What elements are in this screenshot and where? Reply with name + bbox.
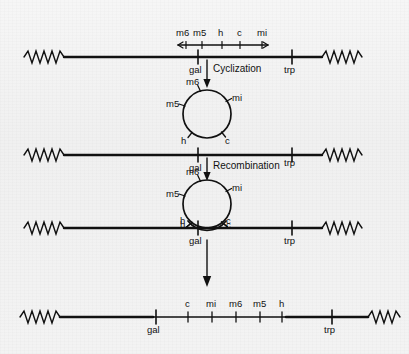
row4-left-zigzag — [20, 311, 60, 323]
row1-right-zigzag — [322, 51, 362, 63]
circle1-label-m5: m5 — [166, 99, 179, 109]
cyclization-arrow-head — [203, 79, 210, 88]
circle2-label-m5: m5 — [166, 189, 179, 199]
circle2-label-m6: m6 — [186, 167, 199, 177]
circle1-tick-h — [188, 133, 192, 138]
row4-right-zigzag — [368, 311, 400, 323]
row4-label-mi: mi — [206, 299, 216, 309]
scale-label-mi: mi — [257, 28, 267, 38]
process-label-cyclization: Cyclization — [213, 64, 261, 74]
circle1-label-mi: mi — [232, 93, 242, 103]
circle1-label-m6: m6 — [186, 77, 199, 87]
circle1-label-h: h — [181, 136, 186, 146]
diagram-canvas: m6 m5 h c mi gal trp Cyclization m6 m5 m… — [0, 0, 409, 354]
row1-label-gal: gal — [189, 65, 202, 75]
row3-label-h: h — [180, 216, 185, 226]
free-phage-circle — [183, 90, 231, 138]
row2-label-trp: trp — [284, 158, 295, 168]
row3-right-zigzag — [322, 222, 362, 234]
row4-label-m5: m5 — [253, 299, 266, 309]
row3-label-trp: trp — [284, 236, 295, 246]
row1-left-zigzag — [24, 51, 64, 63]
row1-label-trp: trp — [284, 65, 295, 75]
row2-right-zigzag — [322, 149, 362, 161]
scale-label-m6: m6 — [176, 28, 189, 38]
circle1-label-c: c — [225, 136, 230, 146]
row3-label-c: c — [226, 216, 231, 226]
row4-label-m6: m6 — [229, 299, 242, 309]
row4-label-h: h — [279, 299, 284, 309]
row4-label-c: c — [185, 299, 190, 309]
row4-label-gal: gal — [147, 325, 160, 335]
scale-label-c: c — [237, 28, 242, 38]
row2-left-zigzag — [24, 149, 64, 161]
scale-label-h: h — [218, 28, 223, 38]
scale-label-m5: m5 — [193, 28, 206, 38]
row3-left-zigzag — [24, 222, 64, 234]
row3-label-gal: gal — [189, 236, 202, 246]
result-arrow-head — [203, 276, 211, 287]
paired-phage-circle — [183, 180, 231, 228]
row4-label-trp: trp — [324, 325, 335, 335]
diagram-svg — [0, 0, 409, 354]
process-label-recombination: Recombination — [213, 161, 280, 171]
circle2-label-mi: mi — [232, 183, 242, 193]
